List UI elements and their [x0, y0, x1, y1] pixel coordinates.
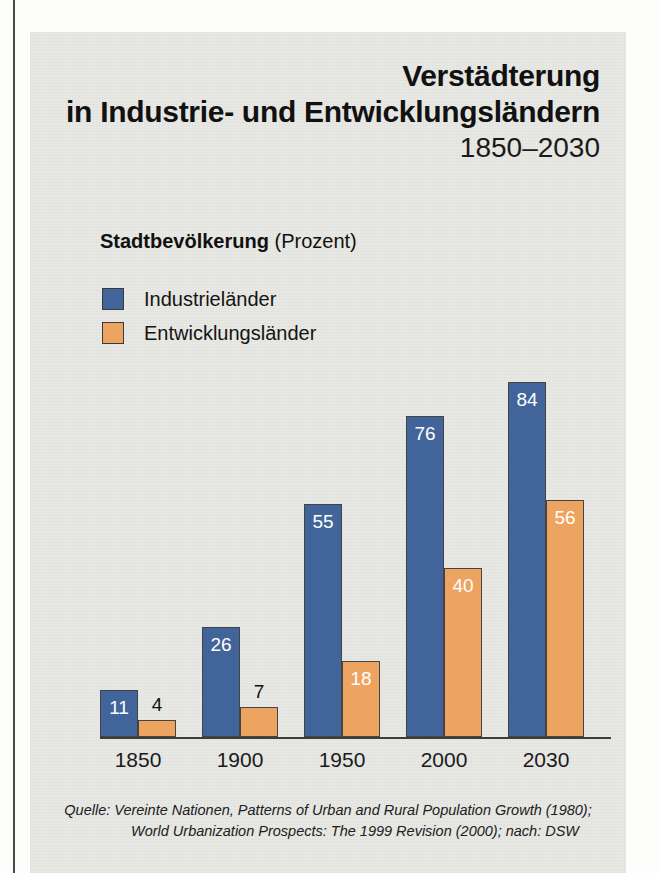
- bar-value-label: 18: [343, 668, 379, 690]
- bar-value-label: 76: [407, 423, 443, 445]
- chart-plot-area: 11418502671900551819507640200084562030: [30, 32, 626, 873]
- chart-source-line-1: Quelle: Vereinte Nationen, Patterns of U…: [64, 802, 591, 818]
- bar-entwicklungslnder-1850: 4: [138, 720, 176, 737]
- bar-value-label: 26: [203, 634, 239, 656]
- chart-page: Verstädterung in Industrie- und Entwickl…: [0, 0, 660, 873]
- bar-industrielnder-1950: 55: [304, 504, 342, 737]
- bar-entwicklungslnder-1950: 18: [342, 661, 380, 737]
- bar-industrielnder-2030: 84: [508, 382, 546, 737]
- bar-entwicklungslnder-2000: 40: [444, 568, 482, 737]
- x-tick-label-1950: 1950: [294, 748, 390, 772]
- bar-value-label: 11: [101, 697, 137, 719]
- chart-panel: Verstädterung in Industrie- und Entwickl…: [30, 32, 626, 873]
- bar-industrielnder-1850: 11: [100, 690, 138, 737]
- bar-value-label: 55: [305, 511, 341, 533]
- bar-industrielnder-2000: 76: [406, 416, 444, 737]
- bar-entwicklungslnder-2030: 56: [546, 500, 584, 737]
- x-tick-label-2000: 2000: [396, 748, 492, 772]
- x-tick-label-2030: 2030: [498, 748, 594, 772]
- chart-source-line-2: World Urbanization Prospects: The 1999 R…: [48, 821, 608, 842]
- bar-industrielnder-1900: 26: [202, 627, 240, 737]
- bar-value-label: 84: [509, 389, 545, 411]
- x-tick-label-1900: 1900: [192, 748, 288, 772]
- bar-value-label: 56: [547, 507, 583, 529]
- bar-value-label: 7: [241, 681, 277, 703]
- chart-source-note: Quelle: Vereinte Nationen, Patterns of U…: [30, 800, 626, 842]
- bar-value-label: 4: [139, 694, 175, 716]
- bar-value-label: 40: [445, 575, 481, 597]
- page-margin-rule: [13, 0, 15, 873]
- bar-entwicklungslnder-1900: 7: [240, 707, 278, 737]
- x-axis-line: [100, 737, 611, 739]
- x-tick-label-1850: 1850: [90, 748, 186, 772]
